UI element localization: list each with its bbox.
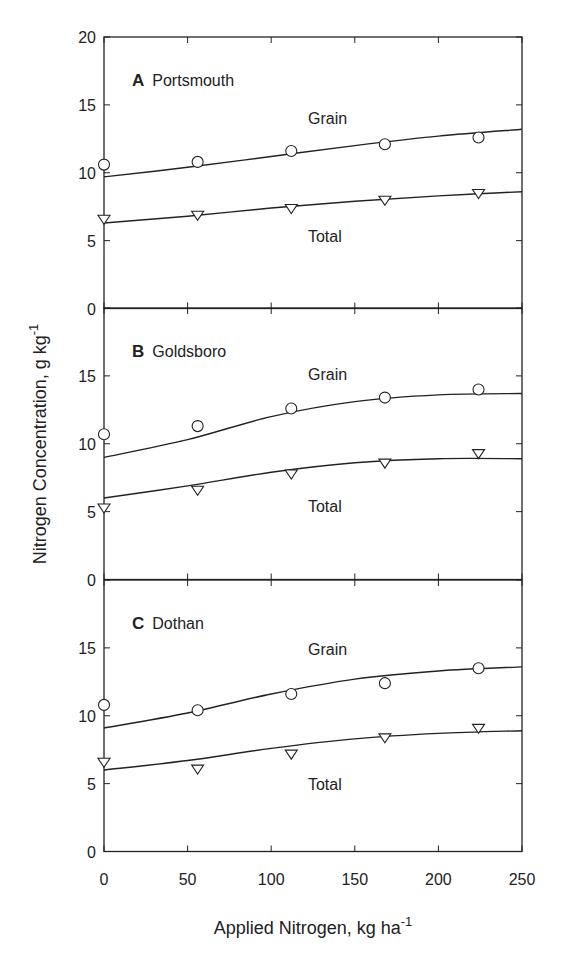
y-tick-label: 10 [78,436,96,453]
fit-curve [104,394,522,458]
fit-curve [104,667,522,728]
series-total: Total [98,190,522,245]
fit-curve [104,129,522,177]
panels: 05101520APortsmouthGrainTotal051015BGold… [78,29,522,861]
x-tick-label: 100 [258,871,285,888]
triangle-down-marker-icon [98,758,110,767]
y-tick-label: 10 [78,165,96,182]
circle-marker-icon [473,132,484,143]
y-tick-label: 0 [87,844,96,861]
series-grain: Grain [99,641,523,728]
x-tick-label: 0 [100,871,109,888]
panel-c: 051015CDothanGrainTotal [78,580,522,861]
x-tick-label: 200 [425,871,452,888]
circle-marker-icon [99,159,110,170]
panel-site-name: Dothan [152,615,204,632]
circle-marker-icon [473,384,484,395]
series-label-grain: Grain [308,366,347,383]
circle-marker-icon [379,139,390,150]
circle-marker-icon [473,663,484,674]
circle-marker-icon [286,403,297,414]
chart-figure: 05101520APortsmouthGrainTotal051015BGold… [0,0,563,971]
circle-marker-icon [192,156,203,167]
triangle-down-marker-icon [379,459,391,468]
triangle-down-marker-icon [285,750,297,759]
fit-curve [104,192,522,223]
y-tick-label: 15 [78,97,96,114]
y-axis-title-text: Nitrogen Concentration, g kg [30,335,50,564]
y-tick-label: 10 [78,708,96,725]
panel-label: CDothan [132,614,204,633]
circle-marker-icon [99,429,110,440]
y-tick-label: 5 [87,233,96,250]
circle-marker-icon [379,678,390,689]
fit-curve [104,731,522,770]
triangle-down-marker-icon [192,765,204,774]
triangle-down-marker-icon [379,734,391,743]
series-grain: Grain [99,110,523,177]
series-label-grain: Grain [308,110,347,127]
x-axis: 050100150200250 [100,871,536,888]
y-tick-label: 15 [78,640,96,657]
triangle-down-marker-icon [473,450,485,459]
x-tick-label: 50 [179,871,197,888]
panel-letter: B [132,342,144,361]
panel-b: 051015BGoldsboroGrainTotal [78,308,522,589]
circle-marker-icon [99,699,110,710]
circle-marker-icon [286,689,297,700]
y-tick-label: 0 [87,301,96,318]
y-axis-title: Nitrogen Concentration, g kg-1 [26,324,50,565]
panel-letter: C [132,614,144,633]
panel-site-name: Portsmouth [152,72,234,89]
series-label-total: Total [308,228,342,245]
y-tick-label: 5 [87,504,96,521]
series-label-total: Total [308,776,342,793]
y-tick-label: 15 [78,368,96,385]
panel-a: 05101520APortsmouthGrainTotal [78,29,522,318]
panel-letter: A [132,71,144,90]
circle-marker-icon [379,392,390,403]
triangle-down-marker-icon [285,204,297,213]
triangle-down-marker-icon [285,470,297,479]
x-axis-title-text: Applied Nitrogen, kg ha [214,918,402,938]
triangle-down-marker-icon [379,196,391,205]
series-total: Total [98,450,522,515]
series-grain: Grain [99,366,523,457]
x-tick-label: 250 [509,871,536,888]
x-tick-label: 150 [341,871,368,888]
circle-marker-icon [286,146,297,157]
y-axis-title-superscript: -1 [26,324,41,336]
y-tick-label: 0 [87,572,96,589]
series-total: Total [98,724,522,793]
series-label-grain: Grain [308,641,347,658]
x-axis-title-superscript: -1 [401,914,413,929]
triangle-down-marker-icon [192,486,204,495]
panel-label: APortsmouth [132,71,234,90]
circle-marker-icon [192,705,203,716]
x-axis-title: Applied Nitrogen, kg ha-1 [214,914,413,938]
fit-curve [104,458,522,498]
circle-marker-icon [192,421,203,432]
y-tick-label: 5 [87,776,96,793]
y-tick-label: 20 [78,29,96,46]
panel-site-name: Goldsboro [152,343,226,360]
panel-label: BGoldsboro [132,342,226,361]
series-label-total: Total [308,498,342,515]
